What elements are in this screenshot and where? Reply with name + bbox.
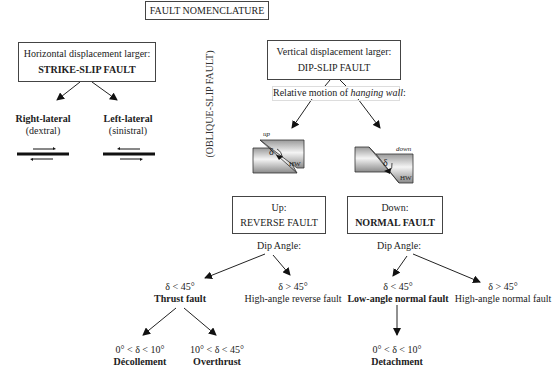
strike-slip-box: Horizontal displacement larger: STRIKE-S… <box>18 42 156 82</box>
high-angle-normal-label: High-angle normal fault <box>450 293 556 305</box>
detachment-angle: 0° < δ < 10° <box>364 344 430 356</box>
normal-fault-box: Down: NORMAL FAULT <box>347 196 443 234</box>
reverse-up-label: Up: <box>233 202 325 214</box>
decollement-label: Décollement <box>108 356 172 368</box>
left-lateral-label: Left-lateral <box>98 113 158 125</box>
oblique-slip-label: (OBLIQUE-SLIP FAULT) <box>204 49 216 159</box>
detachment-label: Detachment <box>364 356 430 368</box>
dextral-symbol <box>17 147 69 161</box>
reverse-dip-angle: Dip Angle: <box>244 240 314 252</box>
hanging-wall-label: Relative motion of hanging wall: <box>272 86 400 101</box>
dip-slip-box: Vertical displacement larger: DIP-SLIP F… <box>267 40 401 80</box>
normal-fault-title: NORMAL FAULT <box>348 217 442 229</box>
delta-symbol-up: δ <box>269 146 274 158</box>
sinistral-symbol <box>103 147 155 161</box>
down-label: down <box>396 145 411 153</box>
dip-slip-desc: Vertical displacement larger: <box>268 46 400 58</box>
normal-down-label: Down: <box>348 202 442 214</box>
thrust-angle: δ < 45° <box>150 281 210 293</box>
reverse-fault-block <box>253 140 304 173</box>
reverse-fault-box: Up: REVERSE FAULT <box>232 196 326 234</box>
dextral-label: (dextral) <box>10 125 76 137</box>
hanging-wall-suffix: : <box>403 87 406 98</box>
hanging-wall-italic: hanging wall <box>351 87 404 98</box>
title-box: FAULT NOMENCLATURE <box>145 1 269 20</box>
delta-symbol-down: δ <box>383 157 388 169</box>
page-title: FAULT NOMENCLATURE <box>146 2 268 19</box>
sinistral-label: (sinistral) <box>98 125 158 137</box>
overthrust-label: Overthrust <box>182 356 252 368</box>
thrust-fault-label: Thrust fault <box>150 293 210 305</box>
hw-label-up: HW <box>289 160 301 168</box>
overthrust-angle: 10° < δ < 45° <box>182 344 252 356</box>
right-lateral-label: Right-lateral <box>10 113 76 125</box>
low-normal-angle: δ < 45° <box>342 281 454 293</box>
decollement-angle: 0° < δ < 10° <box>108 344 172 356</box>
hw-label-down: HW <box>400 174 412 182</box>
high-normal-angle: δ > 45° <box>450 281 556 293</box>
hanging-wall-prefix: Relative motion of <box>273 87 351 98</box>
up-label: up <box>263 130 270 138</box>
high-angle-reverse-label: High-angle reverse fault <box>228 293 358 305</box>
dip-slip-title: DIP-SLIP FAULT <box>268 62 400 74</box>
strike-slip-title: STRIKE-SLIP FAULT <box>19 64 155 76</box>
normal-dip-angle: Dip Angle: <box>364 240 434 252</box>
strike-slip-desc: Horizontal displacement larger: <box>19 48 155 60</box>
reverse-fault-title: REVERSE FAULT <box>233 217 325 229</box>
high-reverse-angle: δ > 45° <box>228 281 358 293</box>
low-angle-normal-label: Low-angle normal fault <box>342 293 454 305</box>
